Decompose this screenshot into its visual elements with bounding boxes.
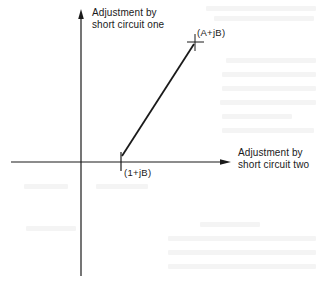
vertical-axis-label-line2: short circuit one: [92, 19, 164, 30]
horizontal-axis-label-line2: short circuit two: [238, 159, 309, 170]
diagram-canvas: [0, 0, 319, 288]
adjustment-path-line: [122, 44, 194, 156]
arrow-right-icon: [220, 159, 231, 165]
end-point-label: (A+jB): [197, 27, 225, 38]
vertical-axis: [78, 9, 84, 276]
start-point-label: (1+jB): [124, 167, 151, 178]
arrow-up-icon: [78, 9, 84, 19]
horizontal-axis-label-line1: Adjustment by: [238, 147, 303, 158]
vertical-axis-label-line1: Adjustment by: [92, 7, 157, 18]
adjustment-diagram: Adjustment by short circuit one Adjustme…: [0, 0, 319, 288]
